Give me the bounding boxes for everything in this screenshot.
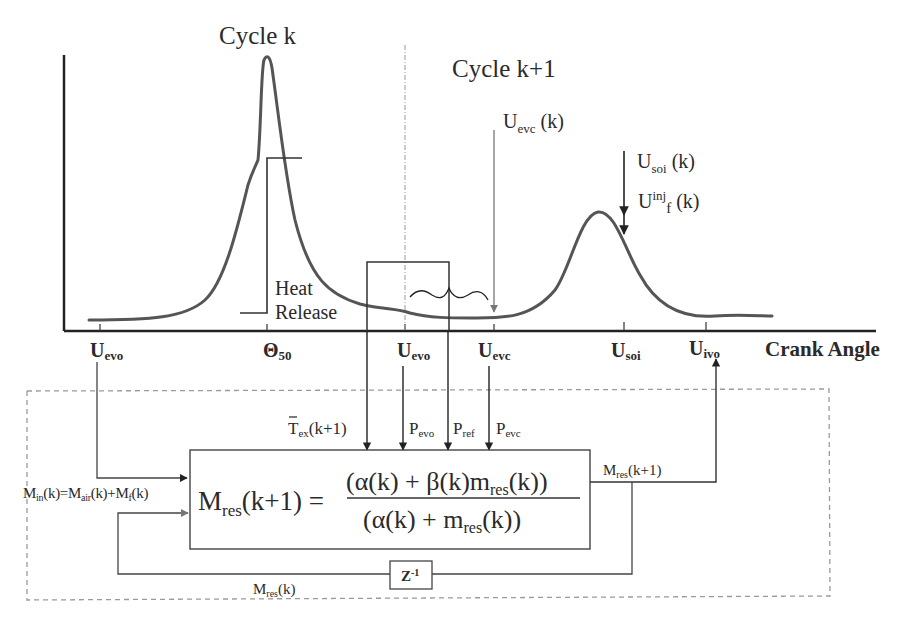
tick-label-usoi: Usoi [611,339,641,363]
output-label: Mres(k+1) [603,462,661,480]
tex-label: Tex(k+1) [288,419,347,439]
tick-label-uevc: Uevc [478,339,511,363]
pref-label: Pref [453,419,475,439]
pevo-label: Pevo [409,419,435,439]
pevc-label: Pevc [496,419,521,439]
axis-ticks [100,322,706,331]
engine-cycle-diagram: Cycle k Cycle k+1 Heat Release Uevc (k) … [0,0,923,625]
feedback-label: Mres(k) [253,581,296,599]
crank-angle-plot: Cycle k Cycle k+1 Heat Release Uevc (k) … [64,22,880,363]
cycle-k1-title: Cycle k+1 [452,55,556,82]
residual-mass-model: Tex(k+1) Pevo Pref Pevc Min(k)=Mair(k)+M… [23,331,830,600]
formula-denominator: (α(k) + mres(k)) [363,505,521,536]
uevc-k-label: Uevc (k) [503,110,564,136]
uinj-f-label: Uinjf (k) [638,188,700,216]
cycle-k-title: Cycle k [219,22,297,49]
x-axis-label: Crank Angle [765,337,880,361]
formula-numerator: (α(k) + β(k)mres(k)) [346,467,548,498]
heat-release-label-2: Release [275,301,337,323]
pressure-curve [89,57,772,320]
tick-label-uivo: Uivo [689,337,720,361]
tick-label-uevo-2: Uevo [397,339,430,363]
min-input-line [97,362,187,478]
tick-labels: Uevo Θ50 Uevo Uevc Usoi Uivo Crank Angle [90,337,880,363]
residual-region-box [367,262,449,331]
feedback-line-left [118,513,390,574]
min-label: Min(k)=Mair(k)+Mf(k) [23,485,148,503]
heat-release-label: Heat [275,277,313,299]
formula-lhs: Mres(k+1) = [198,486,324,520]
tick-label-uevo: Uevo [90,339,123,363]
tick-label-theta50: Θ50 [263,339,292,363]
usoi-k-label: Usoi (k) [637,150,695,176]
